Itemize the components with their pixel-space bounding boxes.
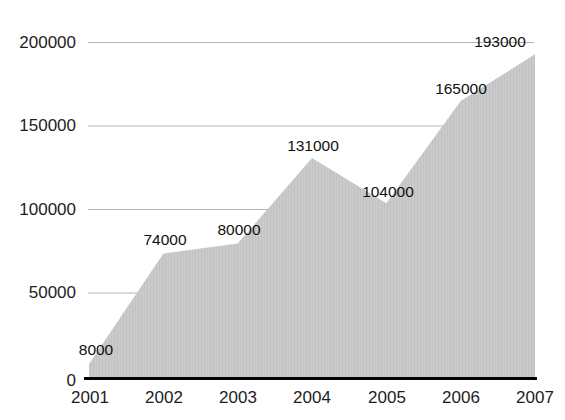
x-tick-label-2007: 2007 xyxy=(516,388,554,408)
y-tick-label-200000: 200000 xyxy=(0,33,76,53)
x-tick-label-2004: 2004 xyxy=(293,388,331,408)
x-tick-label-2002: 2002 xyxy=(145,388,183,408)
data-label-2002: 74000 xyxy=(143,231,186,249)
area-chart: 200000 150000 100000 50000 0 2001 2002 2… xyxy=(0,0,565,420)
data-label-2004: 131000 xyxy=(287,137,339,155)
y-tick-label-0: 0 xyxy=(0,371,76,391)
y-tick-label-150000: 150000 xyxy=(0,116,76,136)
y-tick-label-50000: 50000 xyxy=(0,283,76,303)
data-label-2001: 8000 xyxy=(79,341,113,359)
x-tick-label-2005: 2005 xyxy=(368,388,406,408)
data-label-2007: 193000 xyxy=(474,33,526,51)
x-tick-label-2001: 2001 xyxy=(71,388,109,408)
data-label-2003: 80000 xyxy=(217,221,260,239)
area-series xyxy=(89,54,535,377)
data-label-2005: 104000 xyxy=(362,183,414,201)
x-tick-label-2003: 2003 xyxy=(219,388,257,408)
data-label-2006: 165000 xyxy=(435,80,487,98)
y-tick-label-100000: 100000 xyxy=(0,200,76,220)
x-tick-label-2006: 2006 xyxy=(442,388,480,408)
